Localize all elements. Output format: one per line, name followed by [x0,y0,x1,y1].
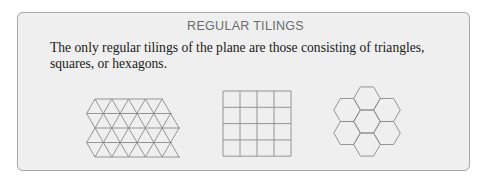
hexagon [334,99,361,122]
triangle-edge [162,143,170,158]
triangle-edge [171,128,179,143]
triangle-edge [137,114,145,129]
triangle-edge [112,128,120,143]
triangle-edge [137,99,145,114]
triangle-edge [154,99,162,114]
square-tiling [223,91,291,156]
triangle-edge [112,99,120,114]
triangle-edge [120,114,128,129]
triangle-edge [129,114,137,129]
triangle-edge [103,143,111,158]
triangle-edge [145,99,153,114]
hexagon-tiling [334,87,401,156]
triangle-edge [162,128,170,143]
triangle-edge [137,143,145,158]
triangle-edge [145,128,153,143]
hexagon [354,133,381,156]
hexagon [354,110,381,133]
triangle-edge [95,99,103,114]
triangle-edge [162,99,170,114]
triangle-edge [112,143,120,158]
triangle-edge [154,114,162,129]
triangle-edge [137,128,145,143]
triangle-edge [103,128,111,143]
hexagon [374,122,401,145]
triangle-edge [154,143,162,158]
triangle-edge [154,128,162,143]
triangle-edge [145,143,153,158]
triangle-tiling [87,99,180,157]
triangle-edge [87,128,95,143]
tilings-illustration [0,0,491,182]
triangle-edge [103,99,111,114]
triangle-edge [103,114,111,129]
triangle-edge [145,114,153,129]
triangle-edge [129,99,137,114]
hexagon [374,99,401,122]
triangle-edge [120,143,128,158]
hexagon [334,122,361,145]
triangle-edge [129,143,137,158]
triangle-edge [87,114,95,129]
triangle-edge [87,143,95,158]
triangle-edge [87,99,95,114]
triangle-edge [120,128,128,143]
triangle-edge [95,143,103,158]
triangle-edge [171,143,179,158]
triangle-edge [112,114,120,129]
triangle-edge [162,114,170,129]
triangle-edge [171,114,179,129]
triangle-edge [95,128,103,143]
hexagon [354,87,381,110]
triangle-edge [95,114,103,129]
triangle-edge [129,128,137,143]
triangle-edge [120,99,128,114]
